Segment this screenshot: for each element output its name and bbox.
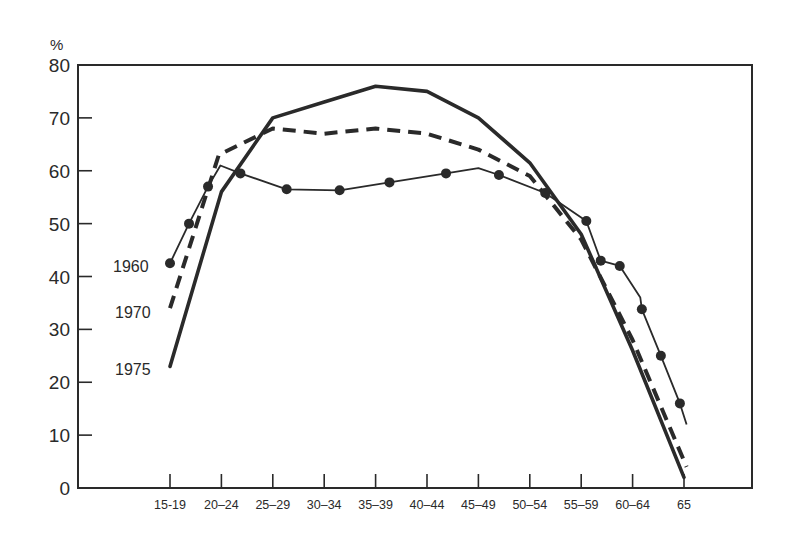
data-point-1960 [203,182,213,192]
x-tick-label: 30–34 [307,498,342,512]
x-tick-label: 55–59 [564,498,599,512]
data-point-1960 [656,351,666,361]
series-label-1960: 1960 [113,258,149,275]
x-tick-label: 40–44 [410,498,445,512]
x-tick-label: 25–29 [255,498,290,512]
y-tick-label: 20 [49,372,70,393]
x-tick-label: 45–49 [461,498,496,512]
y-tick-label: 30 [49,319,70,340]
y-unit-label: % [50,36,63,53]
series-label-1970: 1970 [115,304,151,321]
y-tick-label: 80 [49,55,70,76]
series-label-1975: 1975 [115,361,151,378]
participation-rate-chart: 01020304050607080 15-1920–2425–2930–3435… [0,0,788,540]
series-1975-line [170,86,684,477]
x-tick-label: 50–54 [512,498,547,512]
data-point-1960 [596,256,606,266]
y-tick-label: 70 [49,108,70,129]
x-tick-label: 65 [677,498,691,512]
y-tick-label: 10 [49,425,70,446]
x-tick-label: 60–64 [615,498,650,512]
data-point-1960 [282,184,292,194]
data-point-1960 [184,219,194,229]
data-point-1960 [540,188,550,198]
data-point-1960 [675,398,685,408]
y-axis: 01020304050607080 [49,55,92,499]
x-tick-label: 15-19 [154,498,186,512]
y-tick-label: 60 [49,161,70,182]
x-tick-label: 35–39 [358,498,393,512]
y-tick-label: 40 [49,267,70,288]
x-axis: 15-1920–2425–2930–3435–3940–4445–4950–54… [154,474,691,512]
data-point-1960 [581,216,591,226]
x-tick-label: 20–24 [204,498,239,512]
series-1970-line [170,129,687,467]
series-layer [165,86,687,477]
data-point-1960 [384,177,394,187]
data-point-1960 [335,185,345,195]
data-point-1960 [165,258,175,268]
data-point-1960 [637,304,647,314]
data-point-1960 [235,168,245,178]
y-tick-label: 0 [59,478,70,499]
data-point-1960 [494,170,504,180]
y-tick-label: 50 [49,214,70,235]
data-point-1960 [441,168,451,178]
data-point-1960 [615,261,625,271]
